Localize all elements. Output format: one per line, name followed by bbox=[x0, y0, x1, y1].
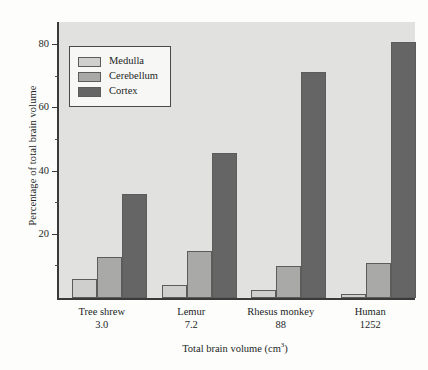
legend-item-cerebellum: Cerebellum bbox=[78, 69, 158, 84]
y-axis-tick-60: 60 bbox=[52, 107, 59, 108]
bar-rhesus-monkey-cortex bbox=[301, 72, 326, 298]
x-axis-group-volume: 3.0 bbox=[57, 319, 147, 330]
y-axis-tick-label-20: 20 bbox=[39, 228, 50, 239]
y-axis-minor-tick-10 bbox=[55, 265, 59, 266]
figure-canvas: Percentage of total brain volume 2040608… bbox=[0, 0, 428, 370]
x-axis-group-name: Rhesus monkey bbox=[236, 306, 326, 317]
legend-item-medulla: Medulla bbox=[78, 54, 158, 69]
x-axis-group-name: Lemur bbox=[147, 306, 237, 317]
x-axis-title-base: Total brain volume (cm bbox=[182, 343, 281, 354]
legend-item-cortex: Cortex bbox=[78, 84, 158, 99]
bar-human-cortex bbox=[391, 42, 416, 298]
legend-swatch-cortex bbox=[78, 87, 101, 97]
legend-label-medulla: Medulla bbox=[109, 56, 144, 67]
y-axis-tick-20: 20 bbox=[52, 234, 59, 235]
bar-rhesus-monkey-medulla bbox=[251, 290, 276, 298]
y-axis-tick-40: 40 bbox=[52, 171, 59, 172]
bar-rhesus-monkey-cerebellum bbox=[276, 266, 301, 298]
y-axis-tick-label-60: 60 bbox=[39, 101, 50, 112]
x-axis-group-volume: 1252 bbox=[326, 319, 416, 330]
y-axis-minor-tick-70 bbox=[55, 76, 59, 77]
y-axis-tick-label-40: 40 bbox=[39, 165, 50, 176]
x-axis-group-label-rhesus-monkey: Rhesus monkey88 bbox=[236, 306, 326, 330]
bar-human-cerebellum bbox=[366, 263, 391, 298]
bar-tree-shrew-cerebellum bbox=[97, 257, 122, 298]
x-axis-group-label-lemur: Lemur7.2 bbox=[147, 306, 237, 330]
y-axis-title: Percentage of total brain volume bbox=[27, 46, 38, 266]
legend-swatch-cerebellum bbox=[78, 72, 101, 82]
bar-tree-shrew-medulla bbox=[72, 279, 97, 298]
bar-lemur-cortex bbox=[212, 153, 237, 298]
x-axis-group-label-tree-shrew: Tree shrew3.0 bbox=[57, 306, 147, 330]
x-axis-title-tail: ) bbox=[284, 343, 288, 354]
legend-label-cortex: Cortex bbox=[109, 86, 138, 97]
x-axis-group-volume: 7.2 bbox=[147, 319, 237, 330]
bar-lemur-medulla bbox=[162, 285, 187, 298]
x-axis-group-volume: 88 bbox=[236, 319, 326, 330]
bar-lemur-cerebellum bbox=[187, 251, 212, 298]
bar-human-medulla bbox=[341, 294, 366, 298]
legend-label-cerebellum: Cerebellum bbox=[109, 71, 158, 82]
legend-swatch-medulla bbox=[78, 57, 101, 67]
bar-tree-shrew-cortex bbox=[122, 194, 147, 298]
y-axis-minor-tick-30 bbox=[55, 202, 59, 203]
x-axis-group-label-human: Human1252 bbox=[326, 306, 416, 330]
y-axis-minor-tick-50 bbox=[55, 139, 59, 140]
x-axis-group-name: Tree shrew bbox=[57, 306, 147, 317]
y-axis-tick-label-80: 80 bbox=[39, 38, 50, 49]
chart-legend: Medulla Cerebellum Cortex bbox=[69, 46, 171, 107]
x-axis-title: Total brain volume (cm3) bbox=[57, 341, 413, 354]
x-axis-group-name: Human bbox=[326, 306, 416, 317]
y-axis-tick-80: 80 bbox=[52, 44, 59, 45]
